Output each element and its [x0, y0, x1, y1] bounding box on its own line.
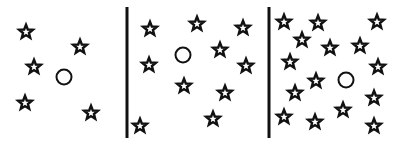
star-icon	[143, 22, 157, 35]
circle-icon	[339, 73, 354, 88]
star-icon	[177, 79, 191, 92]
star-icon	[19, 25, 33, 38]
star-icon	[236, 21, 250, 34]
star-icon	[239, 59, 253, 72]
star-icon	[370, 15, 384, 28]
star-icon	[218, 86, 232, 99]
circle-icon	[57, 70, 72, 85]
star-icon	[311, 16, 325, 29]
star-icon	[336, 103, 350, 116]
star-icon	[371, 60, 385, 73]
panel-1	[18, 25, 98, 119]
star-icon	[213, 43, 227, 56]
star-icon	[133, 119, 147, 132]
star-icon	[288, 86, 302, 99]
star-icon	[367, 119, 381, 132]
star-icon	[283, 55, 297, 68]
diagram-canvas	[0, 0, 401, 145]
star-icon	[309, 74, 323, 87]
star-icon	[190, 17, 204, 30]
star-icon	[353, 39, 367, 52]
star-icon	[367, 91, 381, 104]
star-icon	[84, 106, 98, 119]
star-icon	[323, 41, 337, 54]
star-circle-diagram	[0, 0, 401, 145]
star-icon	[73, 40, 87, 53]
star-icon	[277, 110, 291, 123]
circle-icon	[176, 48, 191, 63]
star-icon	[18, 96, 32, 109]
star-icon	[295, 33, 309, 46]
panel-3	[277, 15, 385, 132]
star-icon	[277, 15, 291, 28]
star-icon	[27, 60, 41, 73]
star-icon	[206, 112, 220, 125]
star-icon	[308, 115, 322, 128]
star-icon	[142, 58, 156, 71]
panel-2	[133, 17, 253, 132]
